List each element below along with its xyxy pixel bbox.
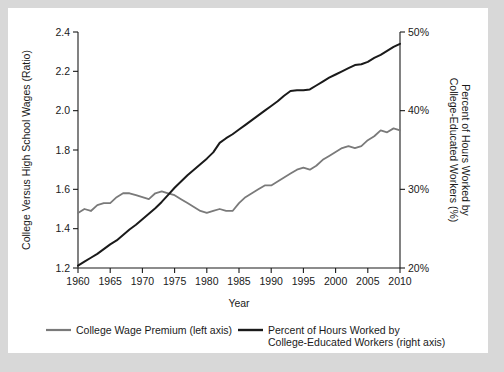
y-axis-right-title-line: Percent of Hours Worked by [460, 84, 472, 216]
axis-labels-group: 1.21.41.61.82.02.22.420%30%40%50%1960196… [20, 26, 472, 309]
line-chart: 1.21.41.61.82.02.22.420%30%40%50%1960196… [8, 8, 488, 353]
x-tick-label: 1960 [66, 275, 90, 287]
axes-group [73, 32, 405, 273]
y-axis-left-title: College Versus High School Wages (Ratio) [20, 50, 32, 250]
x-tick-label: 1995 [292, 275, 316, 287]
y-axis-right-title-line: College-Educated Workers (%) [448, 78, 460, 223]
y-left-tick-label: 1.4 [55, 222, 70, 234]
x-tick-label: 1975 [163, 275, 187, 287]
y-left-tick-label: 2.0 [55, 104, 70, 116]
chart-figure: 1.21.41.61.82.02.22.420%30%40%50%1960196… [8, 8, 488, 353]
x-tick-label: 2010 [388, 275, 412, 287]
page-root: 1.21.41.61.82.02.22.420%30%40%50%1960196… [0, 0, 504, 372]
y-left-tick-label: 1.2 [55, 262, 70, 274]
series-line-1 [78, 128, 400, 213]
figure-card: 1.21.41.61.82.02.22.420%30%40%50%1960196… [8, 8, 488, 353]
legend-label-wage-premium: College Wage Premium (left axis) [76, 324, 232, 336]
legend-label-hours-worked-line2: College-Educated Workers (right axis) [268, 336, 445, 348]
y-left-tick-label: 1.6 [55, 183, 70, 195]
y-right-tick-label: 20% [408, 262, 429, 274]
x-axis-title: Year [228, 297, 250, 309]
x-tick-label: 1980 [195, 275, 219, 287]
chart-legend: College Wage Premium (left axis)Percent … [46, 324, 445, 349]
x-tick-label: 1990 [260, 275, 284, 287]
y-right-tick-label: 40% [408, 104, 429, 116]
y-left-tick-label: 1.8 [55, 144, 70, 156]
y-right-tick-label: 50% [408, 26, 429, 38]
x-tick-label: 1985 [227, 275, 251, 287]
y-left-tick-label: 2.4 [55, 26, 70, 38]
y-left-tick-label: 2.2 [55, 65, 70, 77]
series-group [78, 44, 400, 266]
x-tick-label: 1965 [99, 275, 123, 287]
series-line-2 [78, 44, 400, 266]
x-tick-label: 2000 [324, 275, 348, 287]
y-right-tick-label: 30% [408, 183, 429, 195]
y-axis-right-title: Percent of Hours Worked byCollege-Educat… [448, 78, 472, 223]
legend-label-hours-worked: Percent of Hours Worked by [268, 324, 400, 336]
x-tick-label: 1970 [131, 275, 155, 287]
x-tick-label: 2005 [356, 275, 380, 287]
